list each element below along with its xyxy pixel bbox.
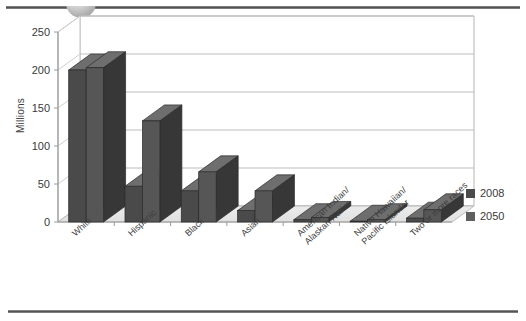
legend-item-2008: 2008 bbox=[466, 188, 526, 199]
legend-label-2050: 2050 bbox=[480, 211, 504, 222]
legend-label-2008: 2008 bbox=[480, 188, 504, 199]
sphere-top-mask bbox=[60, 0, 104, 6]
svg-text:250: 250 bbox=[32, 26, 50, 38]
svg-text:50: 50 bbox=[38, 178, 50, 190]
svg-text:0: 0 bbox=[44, 216, 50, 228]
legend-swatch-2050 bbox=[466, 212, 475, 221]
chart-legend: 2008 2050 bbox=[466, 188, 526, 234]
chart-canvas: 050100150200250 bbox=[0, 14, 526, 306]
y-axis-title: Millions bbox=[15, 76, 26, 156]
svg-text:150: 150 bbox=[32, 102, 50, 114]
bar-2050-1 bbox=[142, 105, 181, 222]
footer-rule bbox=[8, 310, 518, 313]
legend-swatch-2008 bbox=[466, 189, 475, 198]
population-projection-chart: 050100150200250 Millions WhiteHispanicBl… bbox=[0, 14, 526, 306]
svg-text:100: 100 bbox=[32, 140, 50, 152]
svg-text:200: 200 bbox=[32, 64, 50, 76]
bar-2050-0 bbox=[86, 52, 125, 222]
y-tick-labels: 050100150200250 bbox=[32, 26, 50, 228]
legend-item-2050: 2050 bbox=[466, 211, 526, 222]
